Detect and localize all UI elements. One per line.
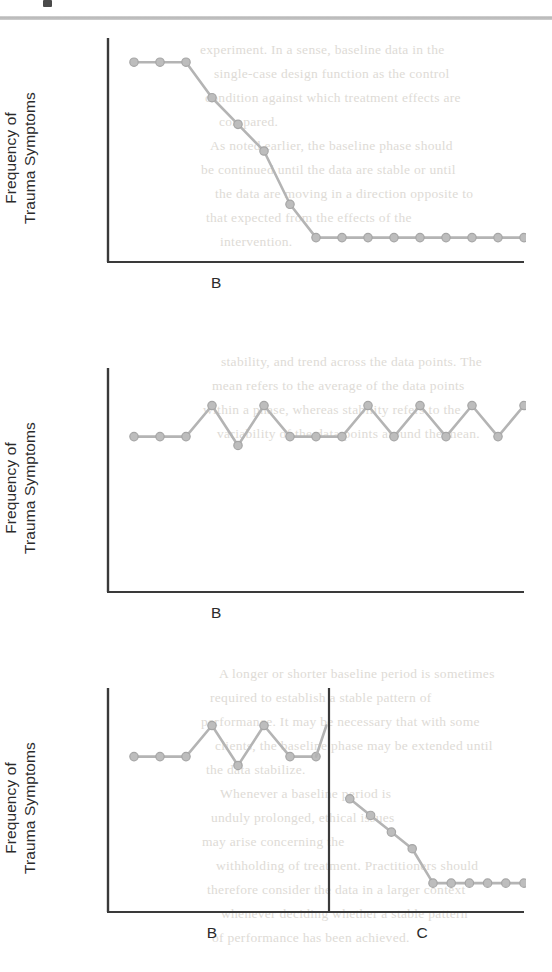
figure-1-chart: [86, 34, 526, 284]
figure-3-y-axis-label: Frequency of Trauma Symptoms: [0, 684, 86, 932]
figure-2-plot: Frequency of Trauma Symptoms B: [0, 364, 552, 652]
data-point-marker: [442, 233, 450, 241]
figure-2-y-axis-label-line1: Frequency of: [2, 442, 19, 534]
data-point-marker: [208, 721, 216, 729]
figure-2-chart: [86, 364, 526, 614]
figure-2-y-axis-label: Frequency of Trauma Symptoms: [0, 364, 86, 612]
data-point-marker: [483, 879, 491, 887]
data-point-marker: [468, 401, 476, 409]
figure-1: Frequency of Trauma Symptoms B: [0, 34, 552, 322]
data-point-marker: [234, 761, 242, 769]
data-point-marker: [408, 845, 416, 853]
data-point-marker: [465, 879, 473, 887]
data-point-marker: [182, 752, 190, 760]
data-point-marker: [338, 233, 346, 241]
figure-1-y-axis-label-line1: Frequency of: [2, 112, 19, 204]
data-point-marker: [286, 432, 294, 440]
data-point-marker: [182, 58, 190, 66]
data-point-marker: [520, 879, 526, 887]
data-point-marker: [338, 432, 346, 440]
data-point-marker: [447, 879, 455, 887]
data-point-marker: [130, 432, 138, 440]
data-point-marker: [364, 233, 372, 241]
data-point-marker: [502, 879, 510, 887]
figure-3-chart: [86, 684, 526, 934]
data-point-marker: [312, 432, 320, 440]
data-point-marker: [366, 811, 374, 819]
data-point-marker: [208, 94, 216, 102]
header-rule: [0, 16, 552, 20]
data-point-marker: [130, 752, 138, 760]
data-point-marker: [390, 432, 398, 440]
data-line: [134, 62, 524, 237]
figure-3-plot: Frequency of Trauma Symptoms B C: [0, 684, 552, 972]
data-point-marker: [520, 233, 526, 241]
figure-3: Frequency of Trauma Symptoms B C: [0, 684, 552, 972]
data-point-marker: [387, 828, 395, 836]
data-line: [350, 799, 524, 883]
data-line: [134, 406, 524, 446]
figure-2-y-axis-label-line2: Trauma Symptoms: [20, 422, 39, 554]
data-point-marker: [494, 432, 502, 440]
data-point-marker: [130, 58, 138, 66]
data-point-marker: [286, 752, 294, 760]
data-point-marker: [442, 432, 450, 440]
data-point-marker: [182, 432, 190, 440]
figure-1-x-axis-label-b: B: [186, 274, 246, 292]
data-point-marker: [520, 401, 526, 409]
data-point-marker: [208, 401, 216, 409]
data-point-marker: [260, 401, 268, 409]
figure-3-y-axis-label-line1: Frequency of: [2, 762, 19, 854]
data-point-marker: [312, 233, 320, 241]
figure-3-y-axis-label-line2: Trauma Symptoms: [20, 742, 39, 874]
data-point-marker: [468, 233, 476, 241]
data-point-marker: [416, 401, 424, 409]
data-point-marker: [234, 441, 242, 449]
data-point-marker: [156, 58, 164, 66]
data-point-marker: [156, 752, 164, 760]
header-glyph: [43, 0, 52, 7]
data-point-marker: [346, 795, 354, 803]
figure-1-plot: Frequency of Trauma Symptoms B: [0, 34, 552, 322]
data-point-marker: [260, 147, 268, 155]
figure-1-y-axis-label: Frequency of Trauma Symptoms: [0, 34, 86, 282]
figure-3-x-axis-label-c: C: [392, 924, 452, 942]
data-point-marker: [364, 401, 372, 409]
figure-3-x-axis-label-b: B: [182, 924, 242, 942]
data-point-marker: [494, 233, 502, 241]
data-point-marker: [286, 200, 294, 208]
data-point-marker: [390, 233, 398, 241]
figure-2: Frequency of Trauma Symptoms B: [0, 364, 552, 652]
data-point-marker: [156, 432, 164, 440]
data-point-marker: [234, 120, 242, 128]
figure-2-x-axis-label-b: B: [186, 604, 246, 622]
data-point-marker: [416, 233, 424, 241]
data-point-marker: [429, 879, 437, 887]
bleedthrough-line: A longer or shorter baseline period is s…: [219, 664, 495, 683]
data-line: [316, 726, 326, 757]
data-point-marker: [260, 721, 268, 729]
figure-1-y-axis-label-line2: Trauma Symptoms: [20, 92, 39, 224]
